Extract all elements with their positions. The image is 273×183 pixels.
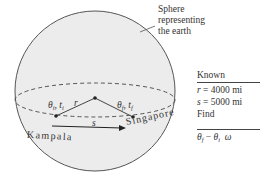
center-point [93, 96, 97, 100]
known-s: s = 5000 mi [197, 96, 260, 108]
sphere-label: Sphere representing the earth [158, 4, 205, 37]
start-theta-t-label: θi, ti [48, 100, 64, 113]
arc-label: s [92, 118, 96, 129]
radius-label: r [74, 98, 78, 109]
known-header: Known [197, 69, 260, 83]
known-r: r = 4000 mi [197, 84, 260, 96]
find-header: Find [197, 108, 260, 120]
end-theta-t-label: θf, tf [117, 100, 133, 113]
known-find-panel: Known r = 4000 mi s = 5000 mi Find θf − … [197, 69, 260, 146]
kampala-point [54, 114, 58, 118]
find-values: θf − θi ω [197, 129, 260, 146]
kampala-label: Kampala [27, 129, 73, 142]
sphere [15, 11, 175, 171]
